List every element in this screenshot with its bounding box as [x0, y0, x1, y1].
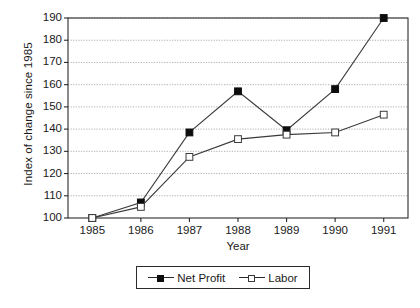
- data-point-labor-1988[interactable]: [235, 136, 242, 143]
- legend-item-net-profit[interactable]: Net Profit: [148, 272, 225, 284]
- data-point-net-profit-1988[interactable]: [235, 88, 242, 95]
- data-point-net-profit-1990[interactable]: [332, 86, 339, 93]
- plot-frame: [68, 18, 408, 218]
- data-point-labor-1990[interactable]: [332, 129, 339, 136]
- data-point-net-profit-1991[interactable]: [380, 15, 387, 22]
- x-tick-label-1991: 1991: [354, 224, 414, 236]
- data-point-labor-1989[interactable]: [283, 131, 290, 138]
- data-point-labor-1991[interactable]: [380, 111, 387, 118]
- legend-swatch-net-profit: [148, 272, 174, 283]
- legend-label-labor: Labor: [268, 272, 297, 284]
- plot-area: [0, 0, 420, 308]
- data-point-labor-1986[interactable]: [137, 203, 144, 210]
- line-chart: Index of change since 1985 1001101201301…: [0, 0, 420, 308]
- data-point-net-profit-1987[interactable]: [186, 129, 193, 136]
- filled-square-marker-icon: [157, 275, 164, 282]
- series-line-net-profit: [92, 18, 383, 218]
- data-point-labor-1987[interactable]: [186, 153, 193, 160]
- legend-label-net-profit: Net Profit: [177, 272, 225, 284]
- legend-swatch-labor: [239, 272, 265, 283]
- x-axis-title: Year: [68, 240, 408, 252]
- series-line-labor: [92, 115, 383, 218]
- open-square-marker-icon: [248, 275, 255, 282]
- legend-item-labor[interactable]: Labor: [239, 272, 297, 284]
- data-point-labor-1985[interactable]: [89, 215, 96, 222]
- chart-legend: Net Profit Labor: [136, 266, 310, 289]
